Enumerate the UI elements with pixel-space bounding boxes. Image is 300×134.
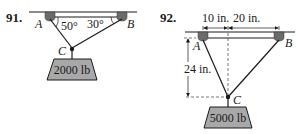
problem-92: 92. 10 in. 20 in. 24 in. A B C xyxy=(160,10,295,128)
diagram-canvas: 91. A B C 50° 30° 2000 lb 92. 10 in. 20 … xyxy=(0,0,300,134)
dimension-label-24in: 24 in. xyxy=(184,62,211,76)
angle-arc-a xyxy=(56,17,58,27)
weight-label: 5000 lb xyxy=(210,111,246,125)
point-label-c: C xyxy=(233,93,242,107)
point-label-c: C xyxy=(58,44,67,58)
dimension-label-20in: 20 in. xyxy=(233,11,260,25)
point-label-a: A xyxy=(192,39,201,53)
problem-number: 92. xyxy=(160,10,176,25)
cable-bc xyxy=(228,40,279,97)
point-label-b: B xyxy=(127,17,135,31)
angle-label-b: 30° xyxy=(87,17,104,31)
problem-91: 91. A B C 50° 30° 2000 lb xyxy=(6,10,137,80)
point-label-a: A xyxy=(34,17,43,31)
angle-label-a: 50° xyxy=(61,19,78,33)
anchor-b-icon xyxy=(274,32,284,41)
weight-label: 2000 lb xyxy=(54,63,90,77)
dimension-label-10in: 10 in. xyxy=(202,11,229,25)
problem-number: 91. xyxy=(6,10,22,25)
angle-arc-b xyxy=(111,17,114,24)
point-label-b: B xyxy=(285,36,293,50)
